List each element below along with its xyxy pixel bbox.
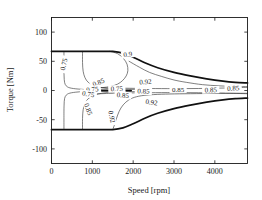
y-axis-title: Torque [Nm] xyxy=(5,68,15,113)
contour-label-group: 0.85 xyxy=(224,84,242,93)
figure-container: 01000200030004000-100-50050100 0.750.850… xyxy=(0,0,262,200)
contour-label-group: 0.85 xyxy=(202,86,219,95)
contour-label: 0.85 xyxy=(116,91,130,100)
x-tick-label: 2000 xyxy=(125,167,141,176)
contour-label: 0.85 xyxy=(227,84,240,93)
contour-label-group: 0.85 xyxy=(169,86,186,94)
x-axis-title: Speed [rpm] xyxy=(128,185,170,195)
contour-label: 0.9 xyxy=(123,50,133,59)
y-tick-label: -100 xyxy=(32,145,47,154)
contour-label: 0.85 xyxy=(172,86,185,94)
y-tick-label: -50 xyxy=(36,116,47,125)
efficiency-map-chart: 01000200030004000-100-50050100 0.750.850… xyxy=(0,0,262,200)
y-tick-label: 100 xyxy=(35,28,47,37)
x-tick-label: 1000 xyxy=(84,167,100,176)
contour-label: 0.92 xyxy=(139,78,152,87)
contour-label-group: 0.85 xyxy=(135,87,153,96)
y-tick-label: 0 xyxy=(43,86,47,95)
x-tick-label: 3000 xyxy=(166,167,182,176)
contour-label-group: 0.92 xyxy=(137,78,155,87)
y-tick-label: 50 xyxy=(39,57,47,66)
contour-label: 0.85 xyxy=(205,86,218,94)
x-tick-label: 0 xyxy=(50,167,54,176)
contour-label: 0.85 xyxy=(137,87,150,96)
x-tick-label: 4000 xyxy=(207,167,223,176)
